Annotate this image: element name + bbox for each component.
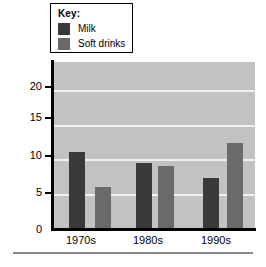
bar-soft-drinks-1990s (227, 143, 243, 229)
y-axis-line (51, 60, 54, 231)
bottom-divider (13, 252, 253, 254)
bar-milk-1970s (69, 152, 85, 229)
bar-soft-drinks-1970s (95, 187, 111, 229)
x-axis-line (51, 228, 256, 231)
legend-swatch-milk (58, 23, 70, 35)
legend-title: Key: (58, 8, 127, 19)
y-tick-label-20: 20 (20, 81, 42, 92)
bar-soft-drinks-1980s (158, 166, 174, 229)
chart-figure: Key: Milk Soft drinks Ounces 20 15 10 5 … (0, 0, 266, 267)
legend-swatch-soft-drinks (58, 38, 70, 50)
gridline-20 (51, 90, 255, 92)
x-tick-label-1980s: 1980s (118, 234, 178, 246)
chart-legend: Key: Milk Soft drinks (50, 3, 133, 53)
legend-label-soft-drinks: Soft drinks (78, 38, 125, 50)
y-tick-label-5: 5 (20, 187, 42, 198)
y-tick-label-0: 0 (20, 224, 42, 235)
legend-entry-milk: Milk (58, 21, 127, 36)
x-tick-label-1990s: 1990s (186, 234, 246, 246)
bar-milk-1980s (136, 163, 152, 229)
legend-label-milk: Milk (78, 23, 96, 35)
gridline-15 (51, 125, 255, 127)
y-tick-label-10: 10 (20, 150, 42, 161)
y-tick-label-15: 15 (20, 112, 42, 123)
x-tick-label-1970s: 1970s (51, 234, 111, 246)
bar-milk-1990s (203, 178, 219, 229)
y-tick-labels: 20 15 10 5 0 (18, 0, 42, 231)
legend-entry-soft-drinks: Soft drinks (58, 36, 127, 51)
plot-area (51, 62, 255, 229)
